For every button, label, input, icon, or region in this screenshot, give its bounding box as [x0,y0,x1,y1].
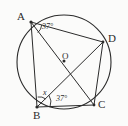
diagonal-ac [31,22,94,105]
vertex-label-a: A [17,11,25,22]
chord-dc [94,42,103,105]
angle-label-at-a: 37° [42,23,53,31]
angle-arc-b-37 [49,95,51,107]
center-label-o: O [62,52,69,61]
vertex-label-c: C [98,99,105,110]
angle-arc-b-x [38,97,46,99]
diagonal-bd [37,42,103,107]
vertex-dot-d [102,41,105,44]
chord-ab [31,22,37,107]
geometry-figure: A D C B O 37° 37° x [0,0,128,126]
vertex-dot-a [29,20,32,23]
angle-label-at-b: 37° [56,95,67,103]
vertex-label-b: B [33,110,40,121]
angle-label-x: x [43,89,47,97]
vertex-label-d: D [108,33,116,44]
vertex-dot-c [93,104,96,107]
